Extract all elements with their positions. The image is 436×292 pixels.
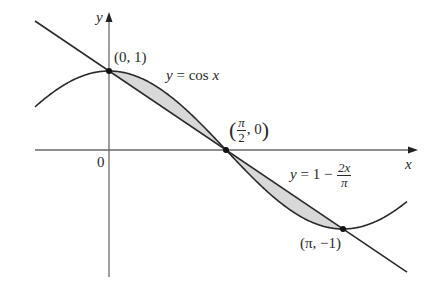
point-label-rest: , 0 [247, 121, 262, 137]
point-label-0-1: (0, 1) [114, 50, 147, 65]
point-label-den: 2 [238, 131, 245, 145]
line-label: y = 1 − 2xπ [290, 161, 352, 189]
cosine-label-rhs: cos [189, 67, 209, 83]
cosine-label-var: x [212, 67, 219, 83]
line-label-eq: = [300, 166, 308, 182]
cosine-line-area-diagram: y x 0 (0, 1) y = cos x (π2, 0) y = 1 − 2… [0, 0, 436, 292]
cosine-label-lhs: y [166, 67, 173, 83]
y-axis-arrow-icon [106, 12, 113, 22]
cosine-label-eq: = [176, 67, 184, 83]
point-label-pi-minus-1: (π, −1) [300, 236, 341, 251]
linear-function-line [35, 21, 407, 272]
x-axis-arrow-icon [408, 147, 418, 154]
y-axis-label: y [96, 10, 103, 25]
origin-label: 0 [97, 155, 105, 170]
cosine-curve-label: y = cos x [166, 68, 219, 83]
line-label-num: 2x [337, 161, 351, 176]
point-label-pi-over-2-0: (π2, 0) [229, 116, 269, 144]
point-pi-minus-1 [340, 226, 346, 232]
x-axis-label: x [405, 157, 412, 172]
point-0-1 [106, 68, 112, 74]
point-pi-over-2-0 [223, 147, 229, 153]
line-label-den: π [341, 176, 348, 190]
plot-canvas [0, 0, 436, 292]
line-label-const: 1 − [313, 166, 333, 182]
point-label-num: π [237, 116, 246, 131]
line-label-lhs: y [290, 166, 297, 182]
